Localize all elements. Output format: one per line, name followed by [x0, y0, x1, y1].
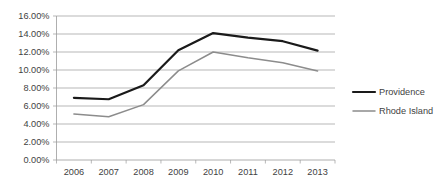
y-axis-label-4: 8.00%	[23, 83, 49, 93]
x-axis-label-2006: 2006	[64, 167, 84, 177]
x-axis-label-2009: 2009	[168, 167, 188, 177]
chart-legend: ProvidenceRhode Island	[353, 87, 433, 116]
y-axis-label-7: 14.00%	[18, 29, 49, 39]
legend-label-rhode-island: Rhode Island	[379, 106, 433, 116]
x-axis-label-2013: 2013	[307, 167, 327, 177]
chart-canvas: 0.00%2.00%4.00%6.00%8.00%10.00%12.00%14.…	[0, 0, 439, 196]
y-axis-label-5: 10.00%	[18, 65, 49, 75]
y-axis-tick-labels: 0.00%2.00%4.00%6.00%8.00%10.00%12.00%14.…	[18, 11, 49, 165]
y-axis-label-3: 6.00%	[23, 101, 49, 111]
x-axis-tick-labels: 20062007200820092010201120122013	[64, 167, 328, 177]
x-axis-label-2007: 2007	[98, 167, 118, 177]
series-line-rhode-island	[74, 52, 318, 117]
data-series	[74, 33, 318, 117]
x-axis-label-2011: 2011	[238, 167, 258, 177]
line-chart: 0.00%2.00%4.00%6.00%8.00%10.00%12.00%14.…	[0, 0, 439, 196]
axis-tick-marks	[53, 16, 335, 164]
x-axis-label-2010: 2010	[203, 167, 223, 177]
y-axis-label-1: 2.00%	[23, 137, 49, 147]
gridlines	[57, 16, 336, 142]
y-axis-label-8: 16.00%	[18, 11, 49, 21]
y-axis-label-2: 4.00%	[23, 119, 49, 129]
series-line-providence	[74, 33, 318, 99]
x-axis-label-2008: 2008	[133, 167, 153, 177]
y-axis-label-0: 0.00%	[23, 155, 49, 165]
y-axis-label-6: 12.00%	[18, 47, 49, 57]
legend-label-providence: Providence	[379, 87, 425, 97]
x-axis-label-2012: 2012	[273, 167, 293, 177]
